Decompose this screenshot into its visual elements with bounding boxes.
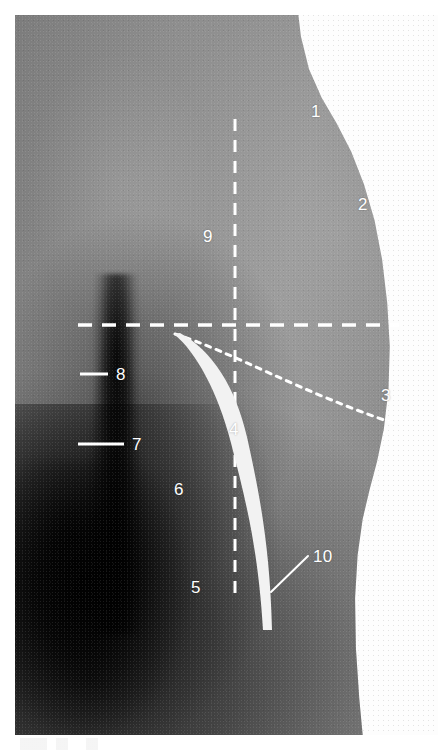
landmark-label-8: 8 <box>116 366 126 383</box>
figure-root: 1 2 3 4 5 6 7 8 9 10 <box>0 0 446 756</box>
leader-line-10 <box>271 556 308 592</box>
landmark-label-5: 5 <box>191 579 201 596</box>
landmark-label-6: 6 <box>174 481 184 498</box>
landmark-label-10: 10 <box>313 548 333 565</box>
thick-curved-marker <box>174 333 272 630</box>
annotation-overlay <box>0 0 446 756</box>
landmark-label-1: 1 <box>311 103 321 120</box>
landmark-label-7: 7 <box>132 436 142 453</box>
landmark-label-3: 3 <box>381 387 391 404</box>
caption-artifact <box>20 738 170 750</box>
landmark-label-2: 2 <box>358 196 368 213</box>
landmark-label-4: 4 <box>229 421 239 438</box>
landmark-label-9: 9 <box>203 228 213 245</box>
